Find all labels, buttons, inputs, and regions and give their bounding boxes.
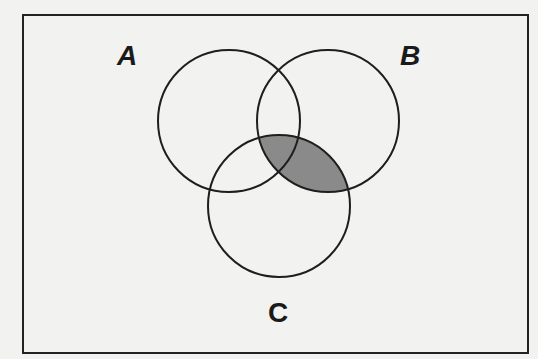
set-label-b: B <box>400 42 420 70</box>
set-label-a: A <box>117 42 137 70</box>
set-label-c: C <box>268 299 288 327</box>
venn-diagram: A B C <box>0 0 538 359</box>
